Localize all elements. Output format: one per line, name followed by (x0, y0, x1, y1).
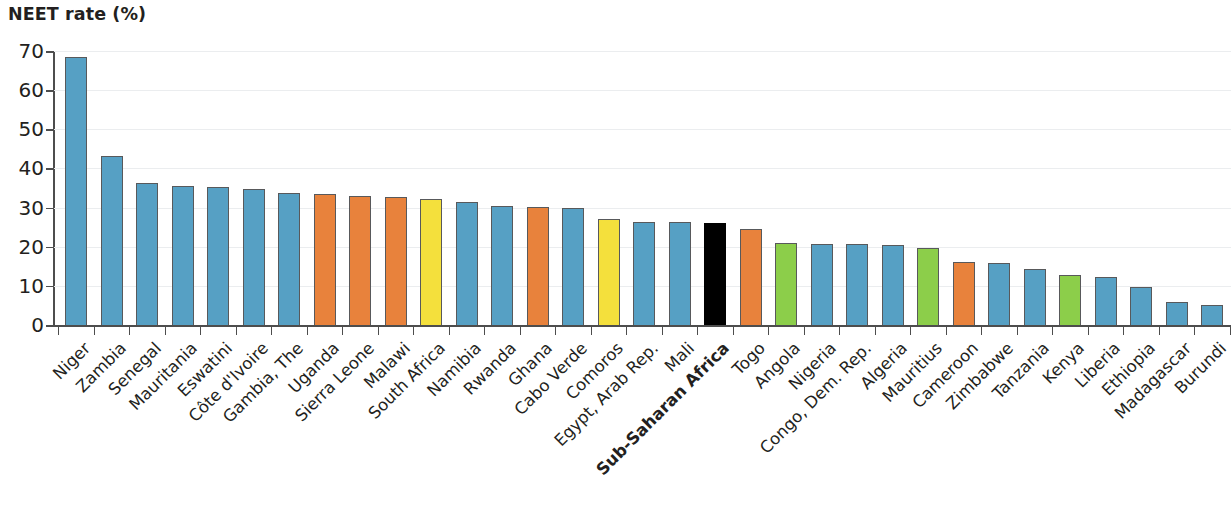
y-tick-label-40: 40 (0, 158, 44, 178)
bar (953, 262, 975, 325)
bar (420, 199, 442, 325)
x-tick-mark (768, 326, 769, 335)
x-tick-mark (520, 326, 521, 335)
y-tick-label-10: 10 (0, 276, 44, 296)
bar (172, 186, 194, 325)
bar (101, 156, 123, 325)
x-tick-mark (58, 326, 59, 335)
axis-baseline (54, 325, 1231, 327)
bar (1166, 302, 1188, 325)
y-tick-label-70: 70 (0, 41, 44, 61)
y-tick-mark-20 (46, 247, 54, 249)
gridline-50 (54, 129, 1231, 130)
x-tick-mark (307, 326, 308, 335)
y-tick-mark-10 (46, 286, 54, 288)
y-tick-label-0: 0 (0, 315, 44, 335)
y-tick-label-60: 60 (0, 80, 44, 100)
bar (1130, 287, 1152, 325)
bar (1095, 277, 1117, 325)
bar (65, 57, 87, 325)
y-tick-mark-50 (46, 129, 54, 131)
gridline-70 (54, 51, 1231, 52)
x-tick-mark (236, 326, 237, 335)
gridline-40 (54, 168, 1231, 169)
y-tick-mark-60 (46, 90, 54, 92)
x-tick-mark (910, 326, 911, 335)
x-tick-mark (555, 326, 556, 335)
x-tick-mark (1123, 326, 1124, 335)
x-tick-mark (946, 326, 947, 335)
plot-area (54, 51, 1231, 325)
x-tick-mark (1017, 326, 1018, 335)
y-tick-label-30: 30 (0, 198, 44, 218)
x-tick-mark (697, 326, 698, 335)
bar (1201, 305, 1223, 325)
y-tick-mark-0 (46, 325, 54, 327)
bar (207, 187, 229, 325)
x-tick-mark (378, 326, 379, 335)
y-tick-label-20: 20 (0, 237, 44, 257)
bar (740, 229, 762, 325)
x-tick-mark (839, 326, 840, 335)
bar (243, 189, 265, 325)
x-tick-mark (271, 326, 272, 335)
bar (917, 248, 939, 326)
x-tick-mark (591, 326, 592, 335)
bar (314, 194, 336, 325)
y-tick-mark-70 (46, 51, 54, 53)
bar (136, 183, 158, 325)
gridline-60 (54, 90, 1231, 91)
x-tick-mark (804, 326, 805, 335)
x-tick-mark (662, 326, 663, 335)
y-tick-mark-40 (46, 168, 54, 170)
bar (882, 245, 904, 325)
bar (1059, 275, 1081, 325)
gridline-30 (54, 208, 1231, 209)
bar (811, 244, 833, 325)
bar (704, 223, 726, 325)
bar (278, 193, 300, 325)
x-tick-mark (342, 326, 343, 335)
x-tick-mark (413, 326, 414, 335)
x-tick-mark (733, 326, 734, 335)
y-tick-mark-30 (46, 208, 54, 210)
x-tick-mark (1088, 326, 1089, 335)
bar (562, 208, 584, 325)
x-tick-mark (1159, 326, 1160, 335)
bar (846, 244, 868, 325)
x-tick-mark (626, 326, 627, 335)
x-tick-mark (981, 326, 982, 335)
x-tick-mark (484, 326, 485, 335)
bar (598, 219, 620, 325)
x-tick-mark (94, 326, 95, 335)
x-tick-mark (165, 326, 166, 335)
x-tick-mark (200, 326, 201, 335)
bar (491, 206, 513, 325)
x-tick-mark (449, 326, 450, 335)
bar (349, 196, 371, 325)
bar (527, 207, 549, 325)
bar (988, 263, 1010, 325)
x-tick-mark (1194, 326, 1195, 335)
bar (669, 222, 691, 325)
bar (1024, 269, 1046, 325)
bar (633, 222, 655, 325)
neet-rate-bar-chart: NEET rate (%) 010203040506070 NigerZambi… (0, 0, 1231, 508)
y-tick-label-50: 50 (0, 119, 44, 139)
x-tick-mark (875, 326, 876, 335)
x-tick-mark (129, 326, 130, 335)
bar (775, 243, 797, 325)
bar (456, 202, 478, 325)
chart-title: NEET rate (%) (8, 4, 146, 24)
bar (385, 197, 407, 325)
x-tick-mark (1052, 326, 1053, 335)
